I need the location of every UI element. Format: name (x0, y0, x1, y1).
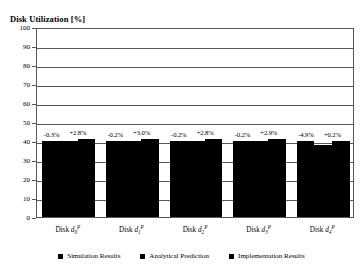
legend-swatch-icon (229, 254, 234, 259)
delta-label: -4.9% (293, 131, 319, 138)
y-tick-label: 20 (6, 176, 30, 184)
gridline (37, 124, 353, 125)
y-tick-label: 80 (6, 62, 30, 70)
legend-label: Simulation Results (67, 252, 120, 260)
delta-label: +0.2% (319, 131, 345, 138)
y-tick-mark (32, 66, 36, 67)
bar (187, 141, 205, 217)
bar (251, 141, 269, 217)
y-tick-mark (32, 47, 36, 48)
bar (106, 141, 124, 217)
y-tick-label: 10 (6, 195, 30, 203)
y-tick-label: 90 (6, 43, 30, 51)
delta-label: -0.2% (166, 131, 192, 138)
bar (42, 141, 60, 217)
y-tick-label: 50 (6, 119, 30, 127)
bar (332, 141, 350, 217)
chart-legend: Simulation ResultsAnalytical PredictionI… (0, 252, 363, 260)
y-tick-label: 30 (6, 157, 30, 165)
legend-item[interactable]: Analytical Prediction (140, 252, 209, 260)
delta-label: +2.9% (256, 129, 282, 136)
delta-label: -0.2% (102, 131, 128, 138)
y-tick-mark (32, 142, 36, 143)
delta-label: +2.8% (192, 129, 218, 136)
y-tick-mark (32, 218, 36, 219)
y-tick-mark (32, 123, 36, 124)
plot-area (36, 28, 354, 218)
legend-label: Analytical Prediction (149, 252, 209, 260)
gridline (37, 105, 353, 106)
bar (297, 141, 315, 217)
delta-label: -0.3% (38, 131, 64, 138)
y-tick-label: 40 (6, 138, 30, 146)
bar (141, 139, 159, 217)
bar (314, 145, 332, 217)
bar (205, 139, 223, 217)
y-tick-mark (32, 104, 36, 105)
legend-swatch-icon (140, 254, 145, 259)
delta-label: +2.8% (65, 129, 91, 136)
bar (233, 141, 251, 217)
legend-swatch-icon (58, 254, 63, 259)
y-tick-mark (32, 161, 36, 162)
bar (124, 141, 142, 217)
bar (170, 141, 188, 217)
legend-item[interactable]: Simulation Results (58, 252, 120, 260)
disk-utilization-chart: Disk Utilization [%] 1009080706050403020… (0, 0, 363, 273)
y-tick-mark (32, 180, 36, 181)
y-tick-mark (32, 28, 36, 29)
bar (78, 139, 96, 217)
chart-title: Disk Utilization [%] (10, 14, 85, 24)
legend-label: Implementation Results (238, 252, 305, 260)
bar (60, 141, 78, 217)
legend-item[interactable]: Implementation Results (229, 252, 305, 260)
y-tick-mark (32, 85, 36, 86)
y-tick-label: 100 (6, 24, 30, 32)
y-tick-label: 0 (6, 214, 30, 222)
y-tick-mark (32, 199, 36, 200)
x-tick-label: Disk d4P (282, 224, 362, 235)
bar (268, 139, 286, 217)
y-tick-label: 70 (6, 81, 30, 89)
delta-label: -0.2% (229, 131, 255, 138)
gridline (37, 48, 353, 49)
y-tick-label: 60 (6, 100, 30, 108)
gridline (37, 67, 353, 68)
delta-label: +3.0% (128, 129, 154, 136)
gridline (37, 86, 353, 87)
